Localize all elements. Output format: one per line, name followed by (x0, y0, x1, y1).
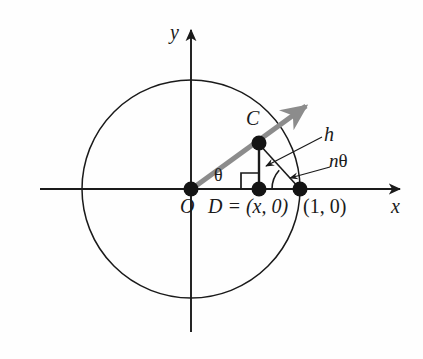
point-c-dot (252, 136, 267, 151)
angle-theta-label: θ (214, 166, 223, 184)
ntheta-n-part: n (329, 150, 339, 171)
geometry-figure: y x C O D = (x, 0) (1, 0) θ h nθ (0, 0, 423, 359)
leader-line-h (266, 137, 322, 166)
leader-line-ntheta (290, 167, 330, 178)
ntheta-theta-part: θ (339, 150, 348, 171)
point-unit-label: (1, 0) (303, 196, 346, 216)
point-origin-label: O (180, 196, 194, 216)
point-c-label: C (246, 108, 259, 128)
x-axis-label: x (391, 196, 400, 216)
y-axis-label: y (170, 22, 179, 42)
point-d-label: D = (x, 0) (208, 196, 288, 216)
angle-arc-ntheta (272, 170, 279, 189)
figure-canvas (0, 0, 423, 359)
callout-ntheta-label: nθ (329, 151, 348, 170)
callout-h-label: h (324, 124, 334, 144)
point-d-name: D = (x, 0) (208, 195, 288, 217)
